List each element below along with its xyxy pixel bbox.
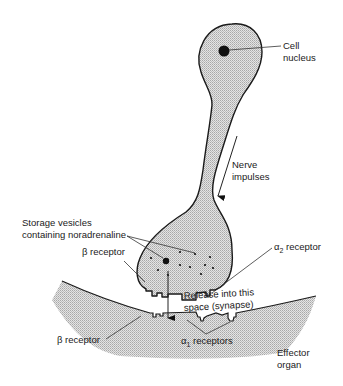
release-label-2: space (synapse)	[184, 298, 254, 313]
cell-nucleus	[219, 46, 230, 57]
storage-vesicles-label: Storage vesicles	[22, 217, 92, 228]
alpha2-receptor-label: α2 receptor	[274, 241, 321, 254]
neuron-synapse-diagram: Cell nucleus Nerve impulses Storage vesi…	[0, 0, 343, 386]
beta-receptor-effector-label: β receptor	[57, 334, 100, 345]
cell-nucleus-label: Cell	[283, 40, 299, 51]
effector-organ-label-2: organ	[277, 359, 301, 370]
nerve-impulses-label: Nerve	[232, 159, 257, 170]
effector-organ-label: Effector	[277, 347, 310, 358]
storage-vesicles-label-2: containing noradrenaline	[22, 229, 126, 240]
beta-receptor-presynaptic-label: β receptor	[82, 246, 125, 257]
nerve-impulses-label-2: impulses	[232, 171, 270, 182]
cell-nucleus-label-2: nucleus	[283, 52, 316, 63]
